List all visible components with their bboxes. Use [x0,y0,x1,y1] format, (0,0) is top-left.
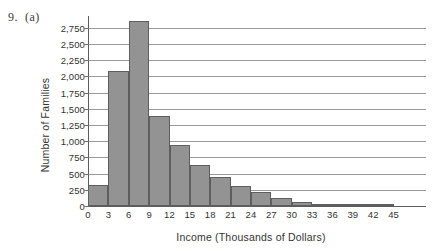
histogram-bar [88,185,108,206]
y-axis-tick-label: 2,000 [61,71,85,82]
y-axis-tick-label: 1,000 [61,136,85,147]
y-axis-tick-label: 2,750 [61,22,85,33]
y-axis-tick-mark [84,141,89,142]
x-axis-tick-label: 6 [126,209,131,220]
histogram-bar [353,204,373,206]
x-axis-tick-label: 42 [368,209,379,220]
y-axis-tick-mark [84,125,89,126]
y-axis-tick-label: 250 [69,184,85,195]
x-axis-tick-label: 0 [85,209,90,220]
histogram-bar [210,177,230,206]
histogram-bar [190,165,210,206]
histogram-bar [333,204,353,206]
x-axis-tick-label: 18 [205,209,216,220]
x-axis-tick-label: 30 [286,209,297,220]
histogram-bar [292,202,312,206]
x-axis-tick-label: 33 [307,209,318,220]
y-axis-tick-label: 1,750 [61,87,85,98]
x-axis-tick-label: 21 [225,209,236,220]
x-axis-tick-label: 3 [106,209,111,220]
histogram-bars [88,18,414,206]
y-axis-tick-mark [84,109,89,110]
x-axis-tick-label: 12 [164,209,175,220]
y-axis-tick-mark [84,157,89,158]
histogram-bar [231,186,251,206]
y-axis-tick-mark [84,28,89,29]
y-axis-tick-mark [84,93,89,94]
histogram-bar [271,198,291,206]
y-axis-tick-mark [84,60,89,61]
y-axis-tick-labels: 02505007501,0001,2501,5001,7502,0002,250… [52,18,85,206]
x-axis-line [88,206,426,207]
histogram-bar [312,204,332,206]
y-axis-tick-label: 1,250 [61,119,85,130]
histogram-bar [251,192,271,206]
y-axis-tick-mark [84,190,89,191]
y-axis-tick-label: 2,500 [61,38,85,49]
x-axis-tick-label: 27 [266,209,277,220]
histogram-bar [149,116,169,206]
y-axis-tick-mark [84,174,89,175]
histogram-bar [129,21,149,206]
y-axis-tick-label: 750 [69,152,85,163]
histogram-bar [373,204,393,206]
y-axis-tick-mark [84,44,89,45]
y-axis-tick-mark [84,76,89,77]
x-axis-tick-label: 45 [388,209,399,220]
x-axis-tick-label: 9 [146,209,151,220]
histogram-bar [108,71,128,206]
y-axis-tick-mark [84,206,89,207]
y-axis-tick-label: 500 [69,168,85,179]
y-axis-title-text: Number of Families [39,77,51,172]
y-axis-tick-label: 1,500 [61,103,85,114]
histogram-bar [170,145,190,206]
x-axis-tick-label: 15 [184,209,195,220]
x-axis-tick-labels: 0369121518212427303336394245 [88,209,428,223]
x-axis-title: Income (Thousands of Dollars) [88,231,414,243]
x-axis-tick-label: 39 [347,209,358,220]
y-axis-tick-label: 2,250 [61,55,85,66]
x-axis-tick-label: 24 [246,209,257,220]
x-axis-tick-label: 36 [327,209,338,220]
histogram-figure: Number of Families 02505007501,0001,2501… [0,0,434,251]
